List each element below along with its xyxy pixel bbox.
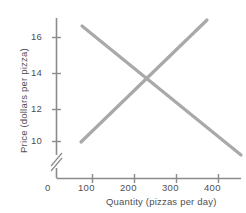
x-tick-label-200: 200: [120, 182, 137, 193]
x-tick-label-0: 0: [45, 182, 51, 193]
x-tick-label-400: 400: [204, 182, 221, 193]
x-axis-label: Quantity (pizzas per day): [106, 196, 217, 207]
x-tick-label-100: 100: [78, 182, 95, 193]
y-axis-label: Price (dollars per pizza): [18, 48, 29, 153]
y-tick-label-14: 14: [31, 67, 42, 78]
supply-demand-chart: 16 14 12 10 0 100 200 300 400 Price (dol…: [0, 0, 246, 213]
demand-curve: [82, 26, 241, 155]
x-tick-label-300: 300: [162, 182, 179, 193]
y-tick-label-12: 12: [31, 103, 42, 114]
supply-curve: [81, 20, 207, 142]
y-tick-label-16: 16: [31, 31, 42, 42]
y-tick-label-10: 10: [31, 135, 42, 146]
